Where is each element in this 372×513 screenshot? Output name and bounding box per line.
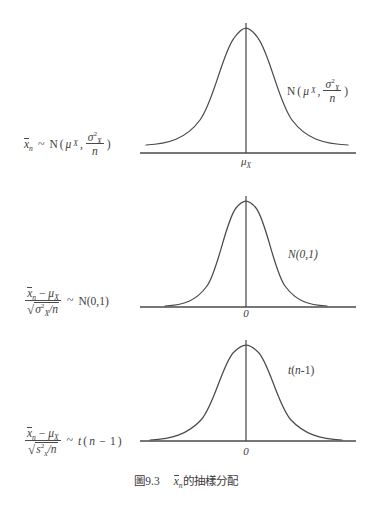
curve-label-normal-wide: N(μX, σ2X n ) bbox=[287, 78, 348, 104]
caption-symbol: xn bbox=[174, 475, 183, 487]
formula-t-statistic: xn − μX √s2x/n ~ t(n − 1) bbox=[24, 427, 122, 455]
label1-fn: N bbox=[287, 85, 295, 97]
z-denominator-sqrt: √σ2X/n bbox=[27, 302, 59, 315]
z-minus-sign: − bbox=[39, 287, 46, 299]
curve-label-t-distribution: t(n-1) bbox=[288, 364, 314, 376]
z-den-divisor: /n bbox=[49, 303, 58, 315]
z-rhs-distribution: N(0,1) bbox=[78, 295, 108, 307]
label1-close: ) bbox=[344, 85, 348, 97]
t-rhs-one: 1 bbox=[110, 435, 116, 447]
formula-rhs-mean: μ bbox=[66, 138, 72, 150]
t-minus-sign: − bbox=[39, 427, 46, 439]
relation-tilde: ~ bbox=[64, 294, 77, 307]
curve-label-standard-normal: N(0,1) bbox=[288, 248, 318, 260]
relation-tilde: ~ bbox=[35, 138, 48, 151]
label1-mean: μ bbox=[303, 85, 309, 97]
tick-label-zero-panel2: 0 bbox=[243, 307, 249, 319]
radical-icon: √ bbox=[27, 303, 34, 316]
caption-text: 的抽樣分配 bbox=[183, 475, 238, 487]
figure-9-3: xn ~ N(μX, σ2X n ) xn − μX √σ2X/n bbox=[0, 0, 372, 513]
variance-denominator: n bbox=[90, 144, 100, 157]
radical-icon: √ bbox=[28, 443, 35, 456]
caption-number: 9.3 bbox=[145, 475, 159, 487]
label3-close: ) bbox=[310, 364, 314, 376]
tick-label-mu-x: μX bbox=[241, 155, 251, 167]
tick-label-zero-panel3: 0 bbox=[243, 445, 249, 457]
label1-open: ( bbox=[297, 85, 301, 97]
t-den-divisor: /n bbox=[48, 443, 57, 455]
t-rhs-open: ( bbox=[83, 435, 87, 447]
t-rhs-fn: t bbox=[78, 435, 81, 447]
t-rhs-minus: − bbox=[97, 435, 108, 447]
label1-variance-fraction: σ2X n bbox=[323, 78, 341, 104]
formula-lhs-subscript: n bbox=[29, 144, 33, 153]
label1-denominator: n bbox=[328, 91, 338, 104]
t-rhs-close: ) bbox=[118, 435, 122, 447]
relation-tilde: ~ bbox=[64, 434, 77, 447]
t-denominator-sqrt: √s2x/n bbox=[28, 442, 58, 455]
t-statistic-fraction: xn − μX √s2x/n bbox=[25, 427, 61, 455]
t-rhs-n: n bbox=[89, 435, 95, 447]
figure-caption: 圖9.3xn的抽樣分配 bbox=[0, 472, 372, 488]
tick1-mean-sub: X bbox=[247, 162, 251, 170]
label1-comma: , bbox=[318, 85, 321, 97]
caption-prefix: 圖 bbox=[134, 475, 145, 487]
formula-z-statistic: xn − μX √σ2X/n ~ N(0,1) bbox=[24, 287, 109, 315]
formula-rhs-fn: N bbox=[49, 138, 57, 150]
formula-sampling-distribution: xn ~ N(μX, σ2X n ) bbox=[24, 131, 111, 157]
z-statistic-fraction: xn − μX √σ2X/n bbox=[25, 287, 61, 315]
formula-variance-fraction: σ2X n bbox=[86, 131, 104, 157]
